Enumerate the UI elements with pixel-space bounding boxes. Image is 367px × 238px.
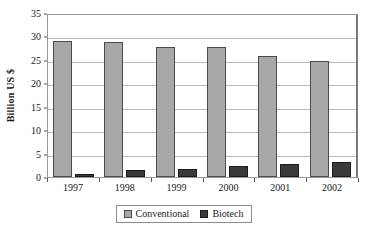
y-axis-title: Billion US $ [0, 0, 22, 190]
y-axis-tick-label: 25 [31, 56, 41, 66]
bar-biotech-1997[interactable] [75, 174, 94, 177]
y-axis-tick-label: 30 [31, 32, 41, 42]
legend-item-conventional[interactable]: Conventional [124, 207, 190, 220]
bar-biotech-2001[interactable] [280, 164, 299, 177]
y-axis-tick-label: 15 [31, 103, 41, 113]
bar-group [151, 15, 202, 177]
bar-group [48, 15, 99, 177]
bar-conventional-2001[interactable] [258, 56, 277, 177]
bar-biotech-2002[interactable] [332, 162, 351, 177]
bar-conventional-1997[interactable] [53, 41, 72, 177]
bar-conventional-1998[interactable] [104, 42, 123, 177]
x-axis-tick-labels: 199719981999200020012002 [47, 181, 358, 197]
x-axis-tick-label: 1997 [47, 181, 99, 197]
y-axis-title-label: Billion US $ [6, 68, 17, 122]
legend-swatch-conventional-icon [124, 210, 132, 218]
bars-layer [48, 15, 356, 177]
x-axis-tick-mark [358, 178, 359, 182]
y-axis-tick-label: 5 [36, 150, 41, 160]
legend-swatch-biotech-icon [200, 210, 208, 218]
x-axis-tick-label: 2002 [306, 181, 358, 197]
plot-area [47, 14, 358, 178]
bar-group [202, 15, 253, 177]
y-axis-tick-label: 35 [31, 9, 41, 19]
bar-conventional-2002[interactable] [310, 61, 329, 177]
bar-group [99, 15, 150, 177]
legend-box: ConventionalBiotech [116, 205, 252, 223]
legend-label: Conventional [136, 207, 190, 220]
bar-biotech-2000[interactable] [229, 166, 248, 177]
x-axis-tick-label: 1998 [99, 181, 151, 197]
chart-legend: ConventionalBiotech [0, 205, 367, 223]
y-axis-tick-label: 10 [31, 126, 41, 136]
bar-conventional-1999[interactable] [156, 47, 175, 177]
bar-conventional-2000[interactable] [207, 47, 226, 177]
bar-group [305, 15, 356, 177]
x-axis-tick-label: 1999 [151, 181, 203, 197]
bar-biotech-1998[interactable] [126, 170, 145, 177]
y-axis-tick-labels: 05101520253035 [22, 14, 44, 178]
y-axis-tick-label: 20 [31, 79, 41, 89]
bar-group [253, 15, 304, 177]
x-axis-tick-label: 2001 [254, 181, 306, 197]
legend-item-biotech[interactable]: Biotech [200, 207, 243, 220]
legend-label: Biotech [212, 207, 243, 220]
bar-chart-figure: Billion US $ 05101520253035 199719981999… [0, 0, 367, 238]
x-axis-tick-label: 2000 [202, 181, 254, 197]
bar-biotech-1999[interactable] [178, 169, 197, 177]
y-axis-tick-label: 0 [36, 173, 41, 183]
